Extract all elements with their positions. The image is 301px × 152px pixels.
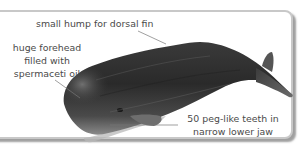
label-forehead-line-3: spermaceti oil	[12, 67, 82, 80]
label-teeth-line-1: 50 peg-like teeth in	[178, 112, 288, 125]
label-forehead-line-1: huge forehead	[12, 41, 82, 54]
whale-tail	[256, 68, 293, 97]
label-forehead: huge forehead filled with spermaceti oil	[12, 41, 82, 80]
label-dorsal-line-1: small hump for dorsal fin	[36, 17, 153, 30]
label-forehead-line-2: filled with	[12, 54, 82, 67]
leader-line-dorsal	[138, 31, 166, 44]
label-teeth-line-2: narrow lower jaw	[178, 125, 288, 138]
label-dorsal-hump: small hump for dorsal fin	[36, 17, 153, 30]
label-teeth: 50 peg-like teeth in narrow lower jaw	[178, 112, 288, 138]
